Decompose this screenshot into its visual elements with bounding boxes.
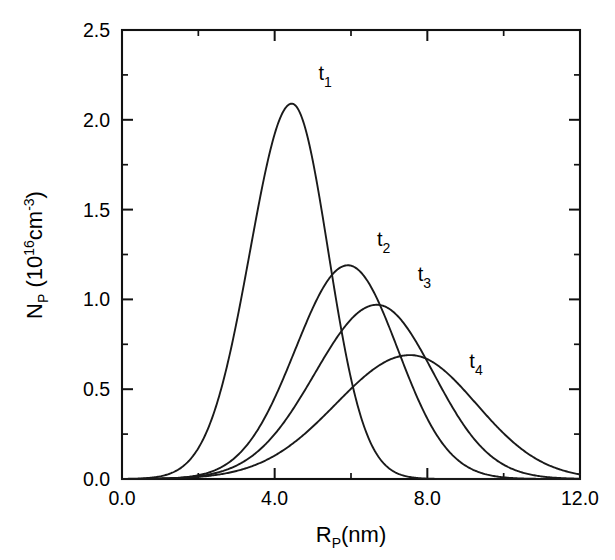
curve-label-sub: 1 [324,74,332,90]
curve-label-sub: 2 [383,240,391,256]
y-tick-label: 0.5 [83,378,110,400]
x-axis-title-tail: (nm) [341,522,386,547]
curve-label-sub: 3 [423,275,431,291]
figure-container: 0.04.08.012.0 0.00.51.01.52.02.5 t1t2t3t… [0,0,615,560]
y-tick-label: 1.0 [83,288,110,310]
x-axis-title-sub: P [332,535,341,551]
y-axis-title-close: ) [22,191,47,198]
y-tick-label: 1.5 [83,199,110,221]
y-axis-title-exp2: -3 [21,198,37,211]
x-axis-title-base: R [316,522,332,547]
y-axis-title-sub: P [35,294,51,303]
y-axis-title-mid: (10 [22,256,47,294]
y-axis-title-base: N [22,303,47,319]
y-axis-title-unit: cm [22,211,47,240]
x-tick-label: 4.0 [261,487,288,509]
curve-label-sub: 4 [475,362,483,378]
x-axis-title: RP(nm) [316,522,386,551]
x-tick-label: 12.0 [561,487,599,509]
x-tick-label: 0.0 [108,487,135,509]
x-tick-label: 8.0 [414,487,441,509]
y-tick-label: 2.5 [83,19,110,41]
y-tick-label: 0.0 [83,468,110,490]
y-axis-title-exp1: 16 [21,240,37,256]
svg-text:RP(nm): RP(nm) [316,522,386,551]
y-tick-label: 2.0 [83,109,110,131]
distribution-chart: 0.04.08.012.0 0.00.51.01.52.02.5 t1t2t3t… [0,0,615,560]
